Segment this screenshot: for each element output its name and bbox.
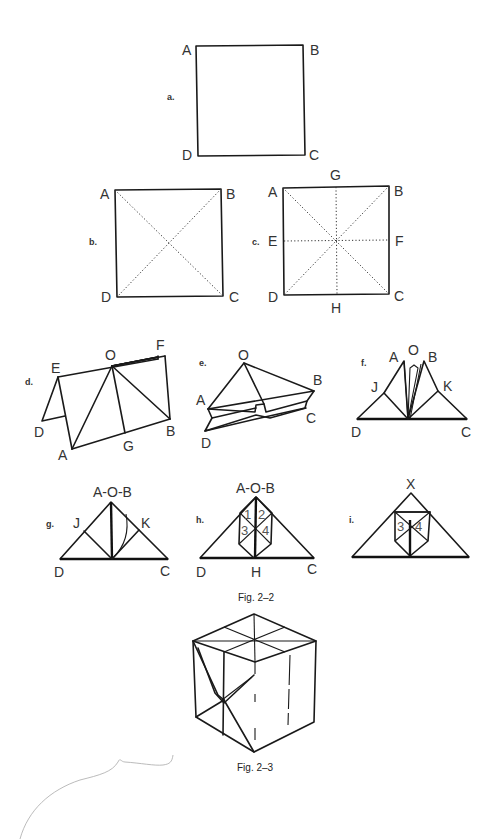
front-left-fold <box>223 652 224 735</box>
step-h-label: h. <box>196 515 204 525</box>
label-AOB: A-O-B <box>93 484 132 500</box>
label-K: K <box>443 378 453 394</box>
label-H: H <box>251 564 261 580</box>
flap-edge <box>222 677 252 700</box>
label-B: B <box>310 42 319 58</box>
edge-CK <box>438 391 467 419</box>
step-f: f. A O B J K D C <box>351 342 471 440</box>
label-X: X <box>406 476 416 492</box>
label-C: C <box>229 289 239 305</box>
label-D: D <box>268 289 278 305</box>
step-h: h. A-O-B D H C 1 2 3 4 <box>196 480 317 580</box>
caption-fig-2-3: Fig. 2–3 <box>237 762 274 773</box>
label-G: G <box>123 438 134 454</box>
label-J: J <box>73 515 80 531</box>
step-e-label: e. <box>199 358 207 368</box>
origami-diagram: a. A B D C b. A B D C c. A B D C G E F H <box>0 0 499 839</box>
center-line <box>111 502 112 559</box>
step-g: g. A-O-B J K D C <box>46 484 170 580</box>
label-AOB: A-O-B <box>236 480 275 496</box>
label-B: B <box>166 423 175 439</box>
label-E: E <box>51 360 60 376</box>
flap-edge <box>198 648 254 703</box>
label-A: A <box>182 42 192 58</box>
step-g-label: g. <box>46 519 54 529</box>
step-a-label: a. <box>167 92 175 102</box>
step-c: c. A B D C G E F H <box>252 167 404 316</box>
label-F: F <box>395 233 404 249</box>
right-face-crease <box>288 655 290 725</box>
edge-EA <box>58 377 72 449</box>
edge-OA <box>72 366 112 449</box>
step-i: i. X 3 4 <box>349 476 469 557</box>
label-E: E <box>268 233 277 249</box>
label-D: D <box>351 424 361 440</box>
label-A: A <box>100 186 110 202</box>
edge-OF <box>112 356 165 366</box>
label-C: C <box>306 410 316 426</box>
label-J: J <box>371 379 378 395</box>
label-D: D <box>54 564 64 580</box>
region-3: 3 <box>397 519 404 534</box>
label-D: D <box>182 147 192 163</box>
label-A: A <box>268 184 278 200</box>
label-O: O <box>105 347 116 363</box>
edge-AB <box>72 419 170 449</box>
region-4: 4 <box>415 519 422 534</box>
label-C: C <box>307 561 317 577</box>
diagonal-crease <box>117 189 221 297</box>
region-3: 3 <box>241 523 248 538</box>
front-flap <box>208 363 314 409</box>
label-O: O <box>238 347 249 363</box>
label-F: F <box>156 337 165 353</box>
cube-fig-2-3 <box>193 614 316 752</box>
step-b-label: b. <box>89 237 97 247</box>
edge <box>404 361 408 419</box>
label-C: C <box>309 147 319 163</box>
label-B: B <box>313 372 322 388</box>
label-C: C <box>160 563 170 579</box>
label-K: K <box>141 515 151 531</box>
label-D: D <box>196 564 206 580</box>
label-G: G <box>330 167 341 183</box>
caption-fig-2-2: Fig. 2–2 <box>238 592 275 603</box>
region-4: 4 <box>262 523 269 538</box>
top-crease <box>254 614 255 662</box>
step-c-label: c. <box>252 237 260 247</box>
label-D: D <box>201 435 211 451</box>
step-d: d. E O F D A G B <box>25 337 175 463</box>
edge-DJ <box>357 393 384 419</box>
step-f-label: f. <box>361 358 367 368</box>
step-a: a. A B D C <box>167 42 319 163</box>
label-H: H <box>331 300 341 316</box>
region-1: 1 <box>244 507 251 522</box>
label-A: A <box>389 349 399 365</box>
edge <box>410 364 421 419</box>
edge-J <box>84 531 112 559</box>
flap-edge <box>224 700 254 752</box>
step-i-label: i. <box>349 515 354 525</box>
label-B: B <box>428 349 437 365</box>
step-e: e. O A B C D <box>196 347 322 451</box>
flap-B <box>408 361 438 419</box>
edge-FB <box>165 356 170 419</box>
step-d-label: d. <box>25 377 33 387</box>
label-B: B <box>226 186 235 202</box>
pencil-scribble <box>20 755 173 839</box>
label-A: A <box>196 392 206 408</box>
label-D: D <box>34 424 44 440</box>
flap-edge <box>196 700 224 717</box>
label-D: D <box>101 289 111 305</box>
label-B: B <box>394 183 403 199</box>
square-a <box>196 45 305 156</box>
label-A: A <box>58 447 68 463</box>
region-2: 2 <box>258 507 265 522</box>
label-C: C <box>461 424 471 440</box>
label-O: O <box>408 342 419 358</box>
step-b: b. A B D C <box>89 186 239 305</box>
label-C: C <box>394 288 404 304</box>
